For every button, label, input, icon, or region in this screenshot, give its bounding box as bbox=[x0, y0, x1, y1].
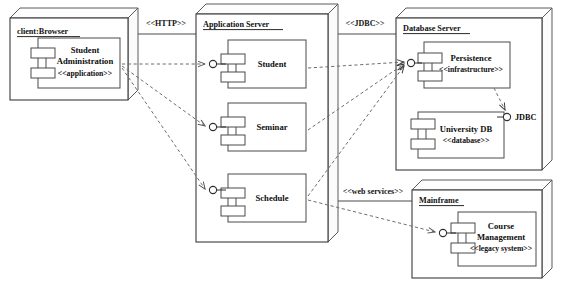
client-node-top-face bbox=[10, 8, 138, 18]
client-node-side-face bbox=[128, 8, 138, 100]
interface-course-circle bbox=[439, 229, 446, 236]
student-administration-stereotype: <<application>> bbox=[58, 69, 112, 78]
diagram-canvas: client:Browser Student Administration <<… bbox=[0, 0, 561, 292]
db-server-node-side-face bbox=[542, 8, 552, 170]
component-student[interactable]: Student bbox=[221, 40, 306, 88]
seminar-tab-lower bbox=[221, 135, 245, 145]
connection-jdbc-label: <<JDBC>> bbox=[345, 19, 385, 28]
interface-seminar-circle bbox=[209, 123, 216, 130]
interface-persistence-circle bbox=[407, 59, 414, 66]
interface-jdbc-circle bbox=[503, 113, 510, 120]
student-tab-upper bbox=[221, 54, 245, 64]
interface-jdbc-label: JDBC bbox=[515, 113, 536, 122]
persistence-stereotype: <<infrastructure>> bbox=[439, 65, 503, 74]
mainframe-node-label: Mainframe bbox=[419, 196, 459, 205]
course-management-tab-upper bbox=[451, 223, 475, 233]
university-db-name: University DB bbox=[440, 124, 493, 134]
university-db-stereotype: <<database>> bbox=[443, 136, 490, 145]
node-mainframe[interactable]: Mainframe Course Management <<legacy sys… bbox=[412, 180, 552, 278]
seminar-name: Seminar bbox=[256, 122, 287, 132]
db-server-node-label: Database Server bbox=[403, 24, 461, 33]
university-db-tab-upper bbox=[411, 119, 435, 129]
interface-schedule-circle bbox=[209, 186, 216, 193]
app-server-node-label: Application Server bbox=[203, 20, 270, 29]
interface-student-circle bbox=[209, 60, 216, 67]
schedule-tab-lower bbox=[221, 206, 245, 216]
schedule-name: Schedule bbox=[256, 193, 289, 203]
component-seminar[interactable]: Seminar bbox=[221, 103, 306, 151]
db-server-node-top-face bbox=[396, 8, 552, 18]
component-schedule[interactable]: Schedule bbox=[221, 174, 306, 222]
student-tab-lower bbox=[221, 72, 245, 82]
connection-http-label: <<HTTP>> bbox=[146, 19, 186, 28]
student-administration-tab-upper bbox=[31, 48, 55, 58]
student-name: Student bbox=[258, 59, 287, 69]
app-server-node-top-face bbox=[196, 4, 338, 14]
seminar-tab-upper bbox=[221, 117, 245, 127]
course-management-stereotype: <<legacy system>> bbox=[470, 244, 532, 253]
component-student-administration[interactable]: Student Administration <<application>> bbox=[31, 38, 120, 88]
university-db-tab-lower bbox=[411, 139, 435, 149]
node-application-server[interactable]: Application Server Student Seminar Sched… bbox=[196, 4, 338, 242]
node-client-browser[interactable]: client:Browser Student Administration <<… bbox=[10, 8, 138, 100]
connection-webservices-label: <<web services>> bbox=[343, 187, 404, 196]
client-node-label: client:Browser bbox=[17, 27, 69, 36]
mainframe-node-side-face bbox=[542, 180, 552, 278]
uml-deployment-diagram: client:Browser Student Administration <<… bbox=[0, 0, 561, 292]
component-course-management[interactable]: Course Management <<legacy system>> bbox=[451, 212, 536, 266]
mainframe-node-top-face bbox=[412, 180, 552, 190]
student-administration-name-line2: Administration bbox=[57, 56, 114, 66]
student-administration-name-line1: Student bbox=[71, 45, 100, 55]
course-management-name-line1: Course bbox=[488, 221, 514, 231]
persistence-name: Persistence bbox=[450, 53, 491, 63]
persistence-tab-upper bbox=[418, 53, 442, 63]
component-university-db[interactable]: University DB <<database>> bbox=[411, 112, 504, 158]
component-persistence[interactable]: Persistence <<infrastructure>> bbox=[418, 42, 510, 88]
student-administration-tab-lower bbox=[31, 68, 55, 78]
node-database-server[interactable]: Database Server Persistence <<infrastruc… bbox=[396, 8, 552, 170]
course-management-name-line2: Management bbox=[477, 232, 525, 242]
